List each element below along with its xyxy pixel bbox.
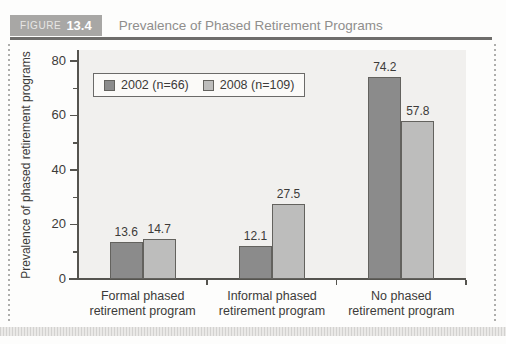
figure-label-word: FIGURE [20,20,61,31]
legend-label-2002: 2002 (n=66) [121,78,189,92]
legend-item-2002: 2002 (n=66) [104,78,189,92]
bar [272,204,305,279]
y-tick-label: 40 [38,162,66,177]
y-tick-label: 20 [38,216,66,231]
bar-value-label: 74.2 [363,60,407,74]
figure-header: FIGURE 13.4 Prevalence of Phased Retirem… [10,15,383,36]
y-tick-label: 80 [38,53,66,68]
x-tick [206,280,208,285]
legend-item-2008: 2008 (n=109) [203,78,295,92]
legend-swatch-2002 [104,80,115,91]
bottom-hatched-band [0,327,506,336]
y-tick-label: 60 [38,107,66,122]
bar-value-label: 57.8 [396,104,440,118]
left-dotted-border [8,44,10,324]
legend: 2002 (n=66) 2008 (n=109) [93,73,305,97]
bar [143,239,176,279]
figure-panel: FIGURE 13.4 Prevalence of Phased Retirem… [0,0,506,344]
bar [401,121,434,279]
y-tick [70,169,77,171]
y-tick [70,224,77,226]
y-tick [70,115,77,117]
bar [239,246,272,279]
legend-label-2008: 2008 (n=109) [220,78,295,92]
bar-value-label: 27.5 [267,187,311,201]
right-dotted-border [494,44,496,324]
x-tick [336,280,338,285]
figure-title: Prevalence of Phased Retirement Programs [119,18,383,33]
figure-label-box: FIGURE 13.4 [10,15,102,36]
figure-label-number: 13.4 [66,18,91,33]
y-tick [70,60,77,62]
header-rule [10,37,492,40]
y-axis-title: Prevalence of phased retirement programs [19,44,35,286]
x-tick [465,280,467,285]
bar-value-label: 12.1 [234,229,278,243]
bar-value-label: 14.7 [137,222,181,236]
legend-swatch-2008 [203,80,214,91]
x-category-label: Informal phased retirement program [197,289,347,319]
bar [110,242,143,279]
y-tick-label: 0 [38,271,66,286]
y-axis-line [77,50,79,280]
x-category-label: No phased retirement program [326,289,476,319]
x-category-label: Formal phased retirement program [68,289,218,319]
